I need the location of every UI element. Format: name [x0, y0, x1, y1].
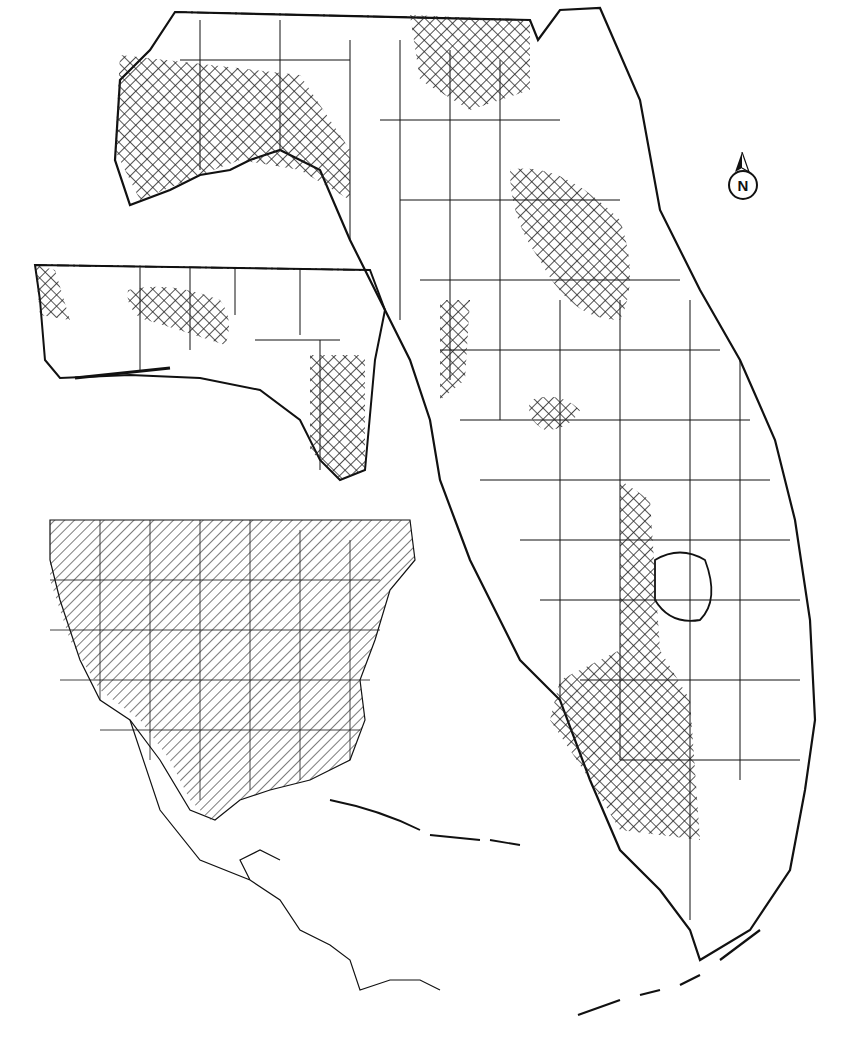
north-america-range-area: [50, 520, 415, 820]
range-map: [0, 0, 843, 1045]
panhandle-range-areas: [35, 265, 365, 480]
north-label: N: [728, 170, 758, 200]
